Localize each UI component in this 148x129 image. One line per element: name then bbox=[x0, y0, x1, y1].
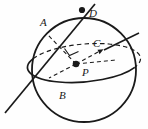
point-label-D: D bbox=[88, 7, 97, 19]
point-label-A: A bbox=[39, 16, 47, 28]
diameter-dashed-lower-right bbox=[76, 60, 116, 64]
point-dot-P bbox=[73, 61, 80, 68]
equator-back-dashed bbox=[33, 44, 140, 68]
point-label-B: B bbox=[59, 89, 66, 101]
radius-PA-dashed bbox=[47, 34, 76, 64]
point-label-C: C bbox=[93, 37, 101, 49]
arrowhead-C bbox=[98, 49, 104, 54]
point-label-P: P bbox=[81, 66, 89, 78]
secant-line-DAB bbox=[5, 4, 95, 113]
ray-PC-dashed bbox=[76, 51, 100, 64]
geometry-figure-container: A D C P B bbox=[0, 0, 148, 129]
sphere-geometry-diagram: A D C P B bbox=[0, 0, 148, 129]
diameter-dashed-lower-left bbox=[49, 64, 76, 78]
axis-line-upper-right bbox=[104, 33, 139, 50]
right-angle-mark-at-P bbox=[65, 49, 79, 56]
point-dot-D bbox=[79, 7, 85, 13]
